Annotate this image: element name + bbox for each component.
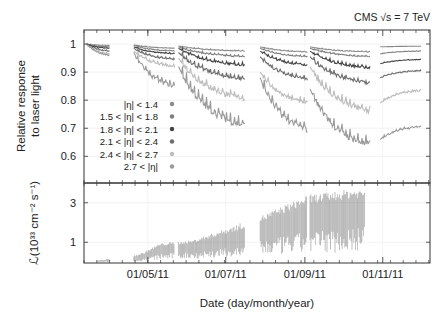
bottom-panel-frame — [84, 183, 430, 263]
y-tick-label: 0.7 — [61, 122, 76, 134]
y-tick-label: 0.9 — [61, 66, 76, 78]
series-line-segment — [310, 89, 370, 144]
x-tick-label: 01/05/11 — [127, 268, 169, 280]
chart: CMS √s = 7 TeV 10.90.80.70.6 31 01/05/11… — [0, 0, 448, 326]
legend-marker — [170, 164, 174, 168]
series-line-segment — [380, 70, 421, 78]
legend-marker — [170, 114, 174, 118]
bottom-panel-series — [97, 190, 364, 262]
legend-label: 1.5 < |η| < 1.8 — [100, 111, 158, 122]
y-tick-label: 0.8 — [61, 94, 76, 106]
y-tick-label: 1 — [70, 236, 76, 248]
x-axis-title: Date (day/month/year) — [200, 297, 315, 309]
series-line-segment — [380, 46, 421, 47]
series-line-segment — [260, 47, 307, 52]
top-y-axis-title-line1: Relative response — [15, 60, 27, 152]
x-tick-label: 01/11/11 — [362, 268, 403, 280]
top-y-axis-title-line2: to laser light — [29, 74, 41, 137]
legend-label: 2.1 < |η| < 2.4 — [100, 136, 158, 147]
series-3 — [87, 44, 422, 84]
series-line-segment — [380, 59, 421, 64]
series-line-segment — [380, 90, 421, 104]
series-line-segment — [380, 51, 421, 54]
bottom-y-axis-title: ℒ(10³³ cm⁻² s⁻¹) — [28, 181, 40, 265]
legend-label: 1.8 < |η| < 2.1 — [100, 124, 158, 135]
bottom-panel-grid — [84, 183, 430, 263]
legend: |η| < 1.41.5 < |η| < 1.81.8 < |η| < 2.12… — [100, 99, 174, 173]
legend-label: 2.7 < |η| — [124, 161, 158, 172]
series-line-segment — [260, 78, 307, 132]
series-line-segment — [134, 53, 175, 88]
legend-label: 2.4 < |η| < 2.7 — [100, 149, 158, 160]
legend-marker — [170, 152, 174, 156]
cms-annotation: CMS √s = 7 TeV — [354, 11, 430, 23]
x-tick-label: 01/09/11 — [284, 268, 326, 280]
bottom-y-tick-labels: 31 — [70, 197, 76, 249]
legend-label: |η| < 1.4 — [124, 99, 158, 110]
top-y-tick-labels: 10.90.80.70.6 — [61, 38, 76, 162]
x-tick-label: 01/07/11 — [205, 268, 247, 280]
y-tick-label: 1 — [70, 38, 76, 50]
y-tick-label: 0.6 — [61, 150, 76, 162]
legend-marker — [170, 139, 174, 143]
y-tick-label: 3 — [70, 197, 76, 209]
series-2 — [87, 44, 422, 69]
legend-marker — [170, 127, 174, 131]
x-tick-labels: 01/05/1101/07/1101/09/1101/11/11 — [127, 268, 404, 280]
legend-marker — [170, 102, 174, 106]
